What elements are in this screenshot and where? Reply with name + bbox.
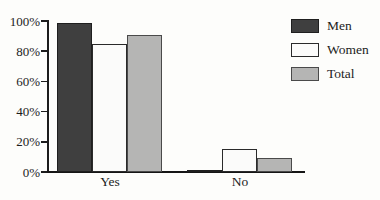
y-axis [47, 20, 49, 172]
bar-total-no [257, 158, 292, 172]
y-tick-label-60: 60% [0, 75, 40, 88]
legend-item-women: Women [291, 43, 369, 57]
bar-chart: 0%20%40%60%80%100% Yes No Men Women Tota… [0, 0, 380, 200]
legend-item-men: Men [291, 19, 369, 33]
legend-item-total: Total [291, 67, 369, 81]
legend-swatch-women [291, 43, 319, 57]
bar-men-no [187, 170, 222, 172]
y-tick-label-20: 20% [0, 135, 40, 148]
y-tick-label-100: 100% [0, 15, 40, 28]
y-tick-100 [41, 20, 47, 22]
y-tick-label-0: 0% [0, 166, 40, 179]
y-tick-label-40: 40% [0, 105, 40, 118]
y-tick-80 [41, 50, 47, 52]
category-label-no: No [232, 175, 249, 189]
category-label-yes: Yes [100, 175, 120, 189]
bar-total-yes [127, 35, 162, 172]
y-tick-label-80: 80% [0, 45, 40, 58]
bar-women-no [222, 149, 257, 172]
y-tick-40 [41, 111, 47, 113]
legend: Men Women Total [291, 19, 369, 91]
bar-women-yes [92, 44, 127, 172]
y-tick-60 [41, 81, 47, 83]
legend-label-total: Total [327, 67, 355, 81]
legend-swatch-total [291, 67, 319, 81]
y-tick-0 [41, 171, 47, 173]
legend-swatch-men [291, 19, 319, 33]
legend-label-men: Men [327, 19, 352, 33]
legend-label-women: Women [327, 43, 369, 57]
bar-men-yes [57, 23, 92, 172]
y-tick-20 [41, 141, 47, 143]
